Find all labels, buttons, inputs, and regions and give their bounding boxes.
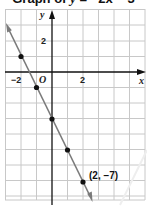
point-1-neg5 <box>65 147 70 152</box>
point-annotation: (2, −7) <box>89 170 118 181</box>
point-0-neg3 <box>49 116 54 121</box>
grid-background <box>5 9 145 200</box>
y-tick-label-2: 2 <box>41 36 46 46</box>
point-neg2-1 <box>18 54 23 59</box>
origin-label: O <box>39 74 46 85</box>
x-axis-label: x <box>138 75 144 86</box>
point-2-neg7 <box>80 179 85 184</box>
x-tick-label-neg2: −2 <box>11 75 21 85</box>
point-neg1-neg1 <box>34 85 39 90</box>
coordinate-plane: −2 O 2 x y 2 (2, −7) <box>0 0 147 210</box>
x-tick-label-2: 2 <box>80 75 85 85</box>
y-axis-label: y <box>39 9 45 20</box>
